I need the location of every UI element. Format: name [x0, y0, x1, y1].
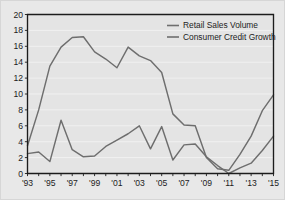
ytick-label-18: 18 — [13, 25, 23, 35]
xtick-labels-group: '93'95'97'99'01'03'05'07'09'11'13'15 — [22, 178, 279, 188]
ytick-label-16: 16 — [13, 41, 23, 51]
xtick-label-1995: '95 — [44, 178, 55, 188]
xtick-label-2005: '05 — [156, 178, 167, 188]
ytick-label-20: 20 — [13, 10, 23, 20]
ytick-label-6: 6 — [18, 121, 23, 131]
xtick-label-1997: '97 — [67, 178, 78, 188]
xtick-label-2011: '11 — [223, 178, 234, 188]
ytick-label-2: 2 — [18, 153, 23, 163]
xtick-label-2009: '09 — [201, 178, 212, 188]
ytick-label-12: 12 — [13, 73, 23, 83]
line-chart: 02468101214161820 '93'95'97'99'01'03'05'… — [0, 0, 285, 200]
ytick-label-4: 4 — [18, 137, 23, 147]
xtick-label-1993: '93 — [22, 178, 33, 188]
chart-figure: 02468101214161820 '93'95'97'99'01'03'05'… — [0, 0, 285, 200]
ytick-label-10: 10 — [13, 89, 23, 99]
legend-label-consumer-credit-growth: Consumer Credit Growth — [183, 32, 276, 42]
xtick-label-1999: '99 — [89, 178, 100, 188]
xtick-label-2007: '07 — [178, 178, 189, 188]
legend-label-retail-sales-volume: Retail Sales Volume — [183, 20, 258, 30]
ytick-labels-group: 02468101214161820 — [13, 10, 23, 179]
xtick-label-2001: '01 — [111, 178, 122, 188]
ytick-label-14: 14 — [13, 57, 23, 67]
ytick-label-0: 0 — [18, 169, 23, 179]
xtick-label-2015: '15 — [268, 178, 279, 188]
xtick-label-2013: '13 — [246, 178, 257, 188]
xtick-label-2003: '03 — [134, 178, 145, 188]
ytick-label-8: 8 — [18, 105, 23, 115]
